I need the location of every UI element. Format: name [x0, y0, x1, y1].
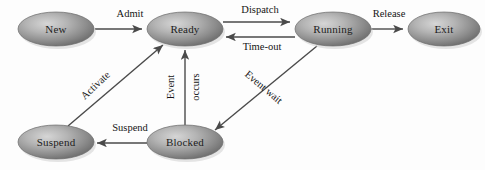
edge-release-label: Release: [373, 8, 406, 19]
node-suspend[interactable]: Suspend: [18, 125, 96, 162]
edge-release: Release: [371, 8, 406, 29]
edge-activate: Activate: [68, 45, 163, 126]
edge-dispatch-label: Dispatch: [241, 4, 279, 15]
edge-event-occurs-label-occurs: occurs: [190, 73, 201, 100]
edge-admit: Admit: [95, 8, 143, 29]
edge-event-wait-label: Event wait: [243, 68, 285, 106]
edge-dispatch: Dispatch: [223, 4, 290, 22]
node-ready[interactable]: Ready: [147, 12, 225, 49]
edge-activate-line: [68, 45, 163, 126]
edge-event-wait: Event wait: [215, 46, 317, 130]
node-ready-label: Ready: [170, 23, 199, 35]
edge-suspend-label: Suspend: [112, 122, 148, 133]
edge-admit-label: Admit: [117, 8, 144, 19]
node-new-label: New: [45, 23, 66, 35]
node-exit-label: Exit: [434, 23, 453, 35]
edge-timeout: Time-out: [226, 37, 295, 52]
state-diagram-canvas: Admit Dispatch Time-out Release Activate: [0, 0, 485, 170]
state-diagram-svg: Admit Dispatch Time-out Release Activate: [0, 0, 485, 170]
node-blocked-label: Blocked: [166, 136, 204, 148]
node-blocked[interactable]: Blocked: [147, 125, 225, 162]
node-exit[interactable]: Exit: [408, 12, 482, 49]
node-running-label: Running: [313, 23, 353, 35]
node-new[interactable]: New: [18, 12, 96, 49]
edge-suspend: Suspend: [97, 122, 149, 143]
node-running[interactable]: Running: [295, 12, 373, 49]
node-suspend-label: Suspend: [37, 136, 76, 148]
edge-activate-label: Activate: [78, 69, 112, 102]
edge-event-occurs: Event occurs: [165, 50, 201, 125]
edge-event-occurs-label-event: Event: [165, 75, 176, 100]
edge-timeout-label: Time-out: [243, 41, 282, 52]
